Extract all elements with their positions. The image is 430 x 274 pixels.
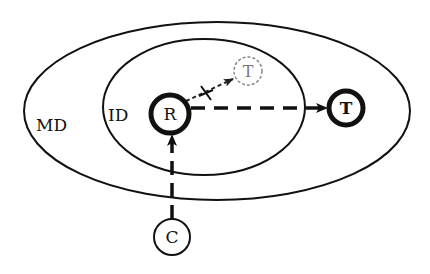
node-r-label: R [164, 104, 178, 124]
region-md-label: MD [36, 115, 67, 135]
region-id-label: ID [108, 105, 128, 125]
node-t-bold: T [329, 91, 363, 125]
node-c: C [154, 219, 190, 255]
node-t-faint-label: T [243, 62, 254, 81]
node-t-bold-label: T [340, 98, 353, 118]
node-r: R [151, 95, 189, 133]
node-c-label: C [165, 227, 178, 247]
node-t-faint: T [234, 57, 262, 85]
diagram-canvas: MD ID R T T C [0, 0, 430, 274]
diagram-svg: MD ID R T T C [0, 0, 430, 274]
